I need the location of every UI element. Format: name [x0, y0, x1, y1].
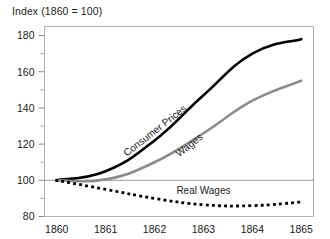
x-tick-label: 1865: [290, 223, 314, 235]
chart-plot: 80100120140160180 1860186118621863186418…: [0, 0, 330, 239]
y-tick-label: 140: [17, 102, 35, 114]
y-tick-label: 100: [17, 174, 35, 186]
chart-container: Index (1860 = 100) 80100120140160180 186…: [0, 0, 330, 239]
x-tick-label: 1860: [45, 223, 69, 235]
x-tick-label: 1862: [143, 223, 167, 235]
y-tick-label: 80: [23, 210, 35, 222]
x-tick-label: 1861: [94, 223, 118, 235]
y-tick-label: 160: [17, 66, 35, 78]
x-tick-label: 1863: [192, 223, 216, 235]
series-label-real-wages: Real Wages: [176, 185, 230, 196]
y-axis-minor-ticks: [41, 54, 45, 199]
x-tick-label: 1864: [241, 223, 265, 235]
x-axis-tick-labels: 186018611862186318641865: [45, 223, 313, 235]
y-tick-label: 180: [17, 29, 35, 41]
y-tick-label: 120: [17, 138, 35, 150]
y-axis-tick-labels: 80100120140160180: [17, 29, 35, 222]
